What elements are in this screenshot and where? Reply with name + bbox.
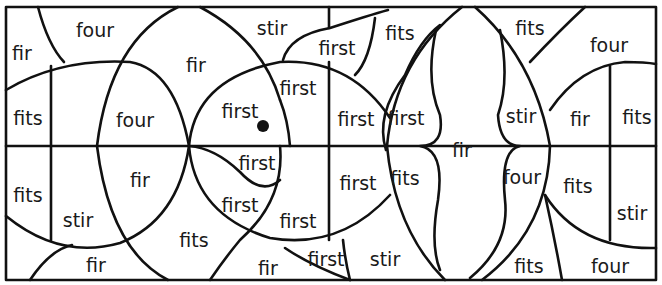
word-region[interactable]: stir: [617, 204, 647, 223]
word-region[interactable]: fits: [390, 169, 419, 188]
word-region[interactable]: first: [318, 39, 355, 58]
word-region[interactable]: four: [116, 111, 154, 130]
word-region[interactable]: fits: [179, 231, 208, 250]
word-region[interactable]: first: [221, 196, 258, 215]
right-circle-top: [550, 62, 656, 110]
word-region[interactable]: first: [221, 102, 258, 121]
word-region[interactable]: fits: [622, 108, 651, 127]
word-region[interactable]: first: [307, 250, 344, 269]
fish-eye: [257, 120, 269, 132]
worksheet: fir four fir stir first fits fits four f…: [0, 0, 662, 285]
word-region[interactable]: four: [591, 257, 629, 276]
center-oval-left: [387, 7, 462, 280]
word-region[interactable]: stir: [257, 19, 287, 38]
word-region[interactable]: fits: [514, 257, 543, 276]
word-region[interactable]: fir: [130, 171, 150, 190]
top-left-arc: [38, 7, 64, 62]
word-region[interactable]: first: [279, 212, 316, 231]
fir-left-bump: [420, 30, 441, 270]
word-region[interactable]: first: [238, 154, 275, 173]
oval-right-mid: [280, 100, 290, 146]
word-region[interactable]: fits: [515, 19, 544, 38]
word-region[interactable]: stir: [370, 250, 400, 269]
word-region[interactable]: first: [279, 79, 316, 98]
word-region[interactable]: first: [339, 174, 376, 193]
word-region[interactable]: fits: [385, 24, 414, 43]
fir-right-bump: [470, 30, 520, 278]
word-region[interactable]: fir: [186, 56, 206, 75]
word-region[interactable]: stir: [506, 107, 536, 126]
word-region[interactable]: fits: [563, 177, 592, 196]
first-side: [355, 18, 375, 75]
word-region[interactable]: fir: [12, 44, 32, 63]
bottom-left-arc: [30, 245, 72, 280]
word-region[interactable]: first: [337, 110, 374, 129]
word-region[interactable]: fir: [570, 110, 590, 129]
word-region[interactable]: fits: [13, 186, 42, 205]
word-region[interactable]: fir: [258, 259, 278, 278]
word-region[interactable]: four: [590, 36, 628, 55]
word-region[interactable]: four: [76, 21, 114, 40]
word-region[interactable]: fir: [86, 256, 106, 275]
word-region[interactable]: fir: [452, 141, 472, 160]
word-region[interactable]: stir: [63, 211, 93, 230]
oval-left-edge: [97, 7, 178, 280]
word-region[interactable]: first: [387, 109, 424, 128]
word-region[interactable]: fits: [13, 109, 42, 128]
word-region[interactable]: four: [503, 168, 541, 187]
